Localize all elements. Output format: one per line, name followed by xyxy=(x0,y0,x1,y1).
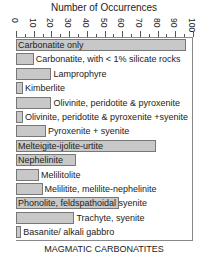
bar-label: Trachyte, syenite xyxy=(76,212,144,224)
bar xyxy=(16,212,74,224)
bar-label: Pyroxenite + syenite xyxy=(48,125,129,137)
tick-mark xyxy=(193,31,194,37)
bar xyxy=(16,183,43,195)
bar xyxy=(16,125,46,137)
bar xyxy=(16,111,23,123)
axis-title: Number of Occurrences xyxy=(0,2,208,13)
tick-label: 10 xyxy=(28,18,38,32)
tick-label: 80 xyxy=(152,18,162,32)
bar xyxy=(16,68,51,80)
tick-label: 50 xyxy=(99,18,109,32)
bar-label: Carbonatite only xyxy=(18,39,84,51)
tick-label: 60 xyxy=(116,18,126,32)
bar-label: Basanite/ alkali gabbro xyxy=(23,226,114,238)
bar xyxy=(16,169,39,181)
bar-label: Phonolite, feldspathoidal syenite xyxy=(18,197,147,209)
tick-label: 100 xyxy=(187,18,197,32)
tick-label: 90 xyxy=(169,18,179,32)
bar-label: Melteigite-ijolite-urtite xyxy=(18,140,103,152)
tick-label: 20 xyxy=(45,18,55,32)
bar-label: Olivinite, peridotite & pyroxenite +syen… xyxy=(25,111,188,123)
bar-label: Lamprophyre xyxy=(53,68,106,80)
tick-label: 70 xyxy=(134,18,144,32)
tick-label: 0 xyxy=(10,18,20,32)
bar-label: Melilitolite xyxy=(41,169,81,181)
bar-label: Melilitite, melilite-nephelinite xyxy=(45,183,157,195)
bar-label: Carbonatite, with < 1% silicate rocks xyxy=(36,53,181,65)
bar xyxy=(16,82,23,94)
bar-label: Nephelinite xyxy=(18,154,63,166)
bar xyxy=(16,226,21,238)
bar xyxy=(16,53,34,65)
tick-label: 40 xyxy=(81,18,91,32)
x-axis-label: MAGMATIC CARBONATITES xyxy=(0,244,208,254)
bar-label: Kimberlite xyxy=(25,82,65,94)
bar xyxy=(16,97,51,109)
bar-label: Olivinite, peridotite & pyroxenite xyxy=(53,97,180,109)
tick-label: 30 xyxy=(63,18,73,32)
